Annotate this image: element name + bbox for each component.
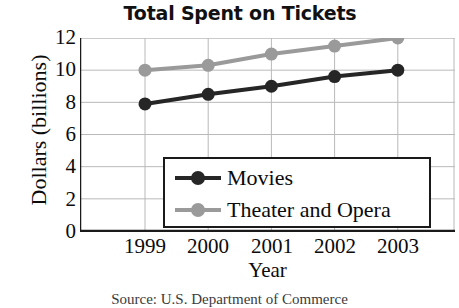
y-tick-label: 6 xyxy=(42,124,76,145)
x-axis-tick-labels: 1999 2000 2001 2002 2003 xyxy=(80,234,455,260)
y-tick-label: 10 xyxy=(42,59,76,80)
y-tick-label: 0 xyxy=(42,221,76,242)
chart-legend: Movies Theater and Opera xyxy=(163,157,431,228)
legend-marker-icon xyxy=(175,169,221,187)
x-tick-label: 2003 xyxy=(367,234,429,258)
x-axis-title: Year xyxy=(80,258,455,283)
legend-item-movies: Movies xyxy=(165,161,429,194)
legend-marker-icon xyxy=(175,201,221,219)
legend-item-theater-and-opera: Theater and Opera xyxy=(165,193,429,226)
x-tick-label: 2000 xyxy=(177,234,239,258)
legend-label: Movies xyxy=(227,167,293,189)
source-note: Source: U.S. Department of Commerce xyxy=(0,291,459,308)
x-tick-label: 2002 xyxy=(304,234,366,258)
chart-title: Total Spent on Tickets xyxy=(70,2,410,24)
y-tick-label: 4 xyxy=(42,156,76,177)
legend-label: Theater and Opera xyxy=(227,199,391,221)
x-tick-label: 2001 xyxy=(241,234,303,258)
y-tick-label: 2 xyxy=(42,189,76,210)
y-tick-label: 12 xyxy=(42,27,76,48)
x-tick-label: 1999 xyxy=(114,234,176,258)
y-tick-label: 8 xyxy=(42,92,76,113)
y-axis-tick-labels: 12 10 8 6 4 2 0 xyxy=(40,0,76,304)
